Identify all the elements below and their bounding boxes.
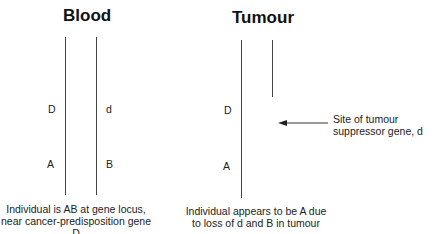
tumour-caption: Individual appears to be A due to loss o… <box>178 205 334 229</box>
tumour-suppressor-note: Site of tumour suppressor gene, d <box>333 113 423 137</box>
blood-label-B: B <box>106 158 113 170</box>
blood-caption: Individual is AB at gene locus, near can… <box>0 203 152 234</box>
arrow-left-icon <box>276 117 336 129</box>
blood-caption-line1: Individual is AB at gene locus, <box>0 203 152 215</box>
tumour-note-line2: suppressor gene, d <box>333 125 423 137</box>
tumour-caption-line1: Individual appears to be A due <box>178 205 334 217</box>
blood-label-D: D <box>48 103 56 115</box>
blood-label-A: A <box>47 158 54 170</box>
blood-caption-line2: near cancer-predisposition gene D <box>0 215 152 234</box>
tumour-label-D: D <box>224 104 232 116</box>
tumour-chromosome-left <box>241 40 242 198</box>
blood-chromosome-left <box>65 37 66 195</box>
tumour-note-line1: Site of tumour <box>333 113 423 125</box>
blood-title: Blood <box>63 6 111 26</box>
tumour-label-A: A <box>223 160 230 172</box>
tumour-title: Tumour <box>232 8 294 28</box>
blood-chromosome-right <box>96 37 97 195</box>
blood-label-d: d <box>106 103 112 115</box>
tumour-caption-line2: to loss of d and B in tumour <box>178 217 334 229</box>
tumour-chromosome-right-truncated <box>272 40 273 97</box>
